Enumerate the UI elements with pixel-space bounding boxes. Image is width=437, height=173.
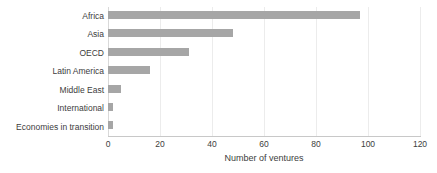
bar-row [108, 62, 420, 80]
bar-africa [108, 11, 360, 19]
bar-economies-in-transition [108, 121, 113, 129]
bar-oecd [108, 48, 189, 56]
x-tick-label-100: 100 [348, 139, 388, 149]
x-tick-label-60: 60 [244, 139, 284, 149]
y-axis-label-oecd: OECD [0, 44, 104, 62]
y-axis-label-international: International [0, 99, 104, 117]
y-axis-label-asia: Asia [0, 25, 104, 43]
x-tick-label-0: 0 [88, 139, 128, 149]
x-tick-label-20: 20 [140, 139, 180, 149]
x-tick-label-120: 120 [400, 139, 437, 149]
x-tick-label-80: 80 [296, 139, 336, 149]
bar-row [108, 99, 420, 117]
bar-row [108, 7, 420, 25]
bar-row [108, 44, 420, 62]
y-axis-label-economies-in-transition: Economies in transition [0, 118, 104, 136]
y-axis-label-middle-east: Middle East [0, 81, 104, 99]
y-axis-label-latin-america: Latin America [0, 62, 104, 80]
bar-row [108, 81, 420, 99]
gridline-120 [420, 7, 421, 136]
bar-international [108, 103, 113, 111]
bar-row [108, 25, 420, 43]
x-axis-title: Number of ventures [108, 153, 420, 163]
bar-row [108, 118, 420, 136]
bar-asia [108, 29, 233, 37]
y-axis-category-labels: Africa Asia OECD Latin America Middle Ea… [0, 7, 104, 136]
plot-area [108, 7, 420, 136]
bar-latin-america [108, 66, 150, 74]
bar-middle-east [108, 85, 121, 93]
x-tick-label-40: 40 [192, 139, 232, 149]
bar-chart: Africa Asia OECD Latin America Middle Ea… [0, 0, 437, 173]
y-axis-label-africa: Africa [0, 7, 104, 25]
x-axis-line [108, 136, 421, 137]
